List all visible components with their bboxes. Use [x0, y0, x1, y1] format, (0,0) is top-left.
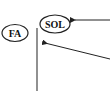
node-sol: SOL [40, 15, 70, 33]
arrow-to-line [47, 44, 110, 60]
diagram-svg: FA SOL [0, 0, 110, 93]
node-sol-label: SOL [45, 19, 65, 30]
diagram-canvas: FA SOL [0, 0, 110, 93]
node-fa-label: FA [9, 28, 22, 39]
node-fa: FA [2, 25, 28, 42]
